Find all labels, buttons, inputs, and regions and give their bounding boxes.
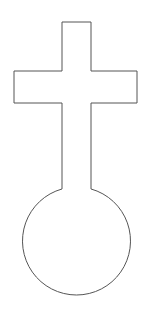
cross-and-orb-outline [0,0,153,315]
cross-orb-outline-path [14,22,137,295]
figure-canvas [0,0,153,315]
